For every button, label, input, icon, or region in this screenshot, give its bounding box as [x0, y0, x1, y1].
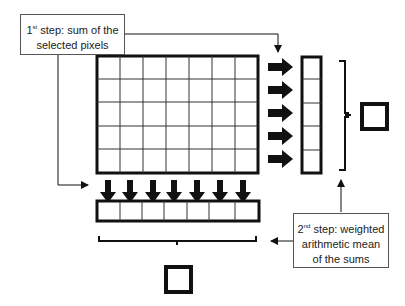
row-sum-vector [302, 57, 321, 173]
step2-label: 2nd step: weighted arithmetic mean of th… [293, 213, 389, 268]
step1-line1: step: sum of the [37, 24, 118, 36]
column-sum-vector [97, 201, 259, 221]
row-result-square [362, 104, 387, 129]
step1-line2: selected pixels [21, 38, 124, 53]
step1-label: 1st step: sum of the selected pixels [20, 14, 125, 55]
step2-line1: step: weighted [310, 223, 384, 235]
row-sum-arrows [268, 58, 293, 168]
step2-line2: arithmetic mean [294, 237, 388, 252]
bottom-brace [99, 236, 256, 245]
pixel-grid [97, 56, 258, 173]
column-result-square [166, 267, 191, 292]
step2-line3: of the sums [294, 252, 388, 267]
